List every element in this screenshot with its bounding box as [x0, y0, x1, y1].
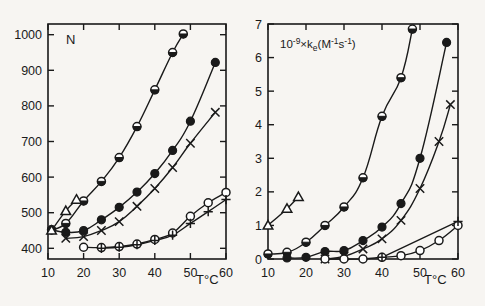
data-point-half-filled-circle-fill [179, 34, 187, 38]
x-tick-label: 40 [148, 266, 162, 280]
data-point-filled-circle [211, 58, 219, 66]
data-point-half-filled-circle-fill [169, 52, 177, 56]
data-point-filled-circle [397, 200, 405, 208]
data-point-filled-circle [115, 203, 123, 211]
y-tick-label: 500 [21, 206, 42, 220]
data-point-filled-circle [97, 216, 105, 224]
x-tick-label: 20 [77, 266, 91, 280]
y-tick-label: 400 [21, 242, 42, 256]
data-point-half-filled-circle-fill [151, 90, 159, 94]
ylabel-times: × [300, 38, 307, 50]
data-point-half-filled-circle-fill [62, 223, 70, 227]
data-point-half-filled-circle-fill [359, 178, 367, 182]
data-point-half-filled-circle-fill [321, 225, 329, 229]
data-point-half-filled-circle-fill [397, 78, 405, 82]
data-point-half-filled-circle-fill [378, 116, 386, 120]
ylabel-units: (M [318, 38, 331, 50]
figure-container: 4005006007008009001000 102030405060 N T°… [0, 0, 485, 306]
data-point-half-filled-circle-fill [408, 29, 416, 33]
data-point-filled-circle [359, 237, 367, 245]
y-tick-label: 6 [255, 51, 262, 65]
data-point-filled-circle [378, 223, 386, 231]
x-tick-label: 30 [112, 266, 126, 280]
x-tick-label: 10 [261, 266, 275, 280]
data-point-filled-circle [443, 38, 451, 46]
data-point-half-filled-circle-fill [340, 207, 348, 211]
data-point-filled-circle [151, 170, 159, 178]
x-tick-label: 20 [299, 266, 313, 280]
data-point-open-circle [359, 255, 367, 263]
y-tick-label: 1000 [14, 28, 42, 42]
data-point-half-filled-circle-fill [133, 127, 141, 131]
x-tick-label: 40 [375, 266, 389, 280]
ylabel-prefix: 10 [280, 38, 293, 50]
two-panel-scatter-figure: 4005006007008009001000 102030405060 N T°… [0, 0, 485, 306]
y-tick-label: 700 [21, 135, 42, 149]
x-tick-label: 30 [337, 266, 351, 280]
data-point-half-filled-circle-fill [115, 158, 123, 162]
y-tick-label: 1 [255, 219, 262, 233]
ylabel-units-close: ) [352, 38, 356, 50]
data-point-open-circle [321, 255, 329, 263]
data-point-open-circle [340, 255, 348, 263]
data-point-filled-circle [302, 253, 310, 261]
data-point-open-circle [204, 199, 212, 207]
y-tick-label: 600 [21, 171, 42, 185]
data-point-open-circle [435, 237, 443, 245]
data-point-filled-circle [283, 254, 291, 262]
left-panel-x-axis-label: T°C [196, 272, 219, 287]
y-tick-label: 5 [255, 85, 262, 99]
y-tick-label: 900 [21, 64, 42, 78]
x-tick-label: 10 [41, 266, 55, 280]
data-point-filled-circle [416, 154, 424, 162]
data-point-open-circle [80, 243, 88, 251]
data-point-open-circle [397, 252, 405, 260]
right-panel-x-axis-label: T°C [424, 272, 447, 287]
y-tick-label: 0 [255, 253, 262, 267]
data-point-filled-circle [169, 146, 177, 154]
data-point-open-circle [416, 247, 424, 255]
data-point-half-filled-circle-fill [97, 181, 105, 185]
data-point-filled-circle [133, 188, 141, 196]
data-point-half-filled-circle-fill [302, 242, 310, 246]
y-tick-label: 2 [255, 185, 262, 199]
x-tick-label: 60 [451, 266, 465, 280]
y-tick-label: 7 [255, 18, 262, 32]
left-panel-y-axis-label: N [66, 32, 75, 47]
data-point-filled-circle [186, 117, 194, 125]
y-tick-label: 800 [21, 99, 42, 113]
y-tick-label: 3 [255, 152, 262, 166]
data-point-half-filled-circle-fill [264, 254, 272, 258]
x-tick-label: 60 [219, 266, 233, 280]
y-tick-label: 4 [255, 118, 262, 132]
